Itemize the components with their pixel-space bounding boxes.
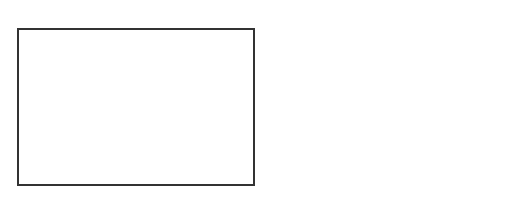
decision-graph-chart bbox=[0, 0, 522, 204]
